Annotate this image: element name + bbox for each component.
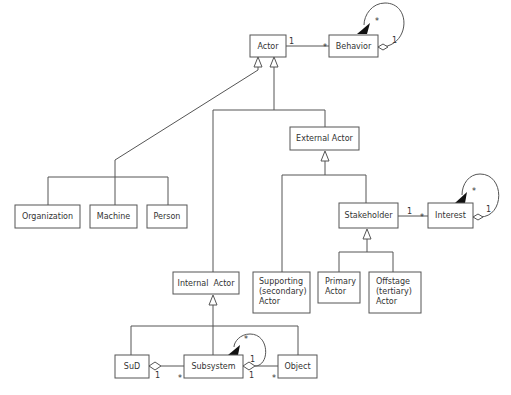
mult-subsystem-self-star: *: [244, 335, 248, 344]
mult-interest-star: *: [420, 213, 424, 222]
edges: 1 * * 1 1 * * 1: [48, 3, 499, 383]
mult-behavior-star: *: [323, 43, 327, 52]
generalization-triangle-icon: [321, 151, 329, 161]
mult-actor-1: 1: [289, 37, 294, 46]
class-label-line: (secondary): [259, 287, 307, 296]
class-behavior[interactable]: Behavior: [329, 35, 378, 57]
class-label-line: Offstage: [376, 277, 410, 286]
arrowhead-icon: [357, 23, 370, 34]
generalization-triangle-icon: [270, 57, 278, 67]
class-supporting-actor[interactable]: Supporting (secondary) Actor: [253, 272, 310, 313]
class-label: Stakeholder: [345, 211, 394, 220]
class-stakeholder[interactable]: Stakeholder: [339, 203, 398, 228]
generalization-triangle-icon: [209, 295, 217, 305]
gen-actor-org-group: [115, 67, 258, 177]
class-primary-actor[interactable]: Primary Actor: [318, 272, 360, 303]
class-label-line: Supporting: [259, 277, 303, 286]
class-label: Object: [284, 362, 310, 371]
class-label: Internal Actor: [178, 279, 236, 288]
class-interest[interactable]: Interest: [428, 203, 473, 228]
uml-class-diagram: 1 * * 1 1 * * 1: [0, 0, 511, 395]
mult-behavior-self-star: *: [375, 17, 379, 26]
aggregation-diamond-icon: [473, 214, 483, 220]
class-label: Actor: [257, 42, 279, 51]
class-label: Person: [154, 212, 181, 221]
class-internal-actor[interactable]: Internal Actor: [173, 272, 239, 294]
class-label: SuD: [124, 362, 140, 371]
class-label-line: (tertiary): [376, 287, 412, 296]
class-label: Machine: [97, 212, 131, 221]
mult-object-star: *: [272, 374, 276, 383]
class-label-line: Actor: [259, 297, 281, 306]
class-machine[interactable]: Machine: [90, 205, 137, 228]
aggregation-diamond-icon: [378, 44, 388, 50]
aggregation-diamond-icon: [149, 362, 161, 370]
generalization-triangle-icon: [363, 229, 371, 239]
class-label: Behavior: [336, 42, 372, 51]
mult-behavior-self-1: 1: [392, 36, 397, 45]
arrowhead-icon: [455, 192, 467, 203]
class-sud[interactable]: SuD: [115, 355, 149, 378]
mult-subsystem-object-1: 1: [249, 371, 254, 380]
class-label: External Actor: [296, 134, 353, 143]
generalization-triangle-icon: [254, 57, 262, 67]
class-object[interactable]: Object: [278, 355, 317, 378]
class-label-line: Primary: [325, 277, 356, 286]
mult-stakeholder-1: 1: [407, 207, 412, 216]
mult-sud-1: 1: [155, 371, 160, 380]
class-person[interactable]: Person: [147, 205, 187, 228]
class-organization[interactable]: Organization: [15, 205, 80, 228]
class-label: Subsystem: [191, 362, 235, 371]
class-subsystem[interactable]: Subsystem: [184, 355, 243, 378]
class-label: Interest: [435, 211, 466, 220]
mult-subsystem-star: *: [178, 374, 182, 383]
mult-interest-self-1: 1: [486, 205, 491, 214]
class-external-actor[interactable]: External Actor: [290, 127, 359, 150]
class-actor[interactable]: Actor: [250, 35, 286, 57]
class-label: Organization: [22, 212, 73, 221]
mult-interest-self-star: *: [472, 187, 476, 196]
class-label-line: Actor: [376, 297, 398, 306]
class-label-line: Actor: [325, 287, 347, 296]
class-offstage-actor[interactable]: Offstage (tertiary) Actor: [369, 272, 421, 313]
